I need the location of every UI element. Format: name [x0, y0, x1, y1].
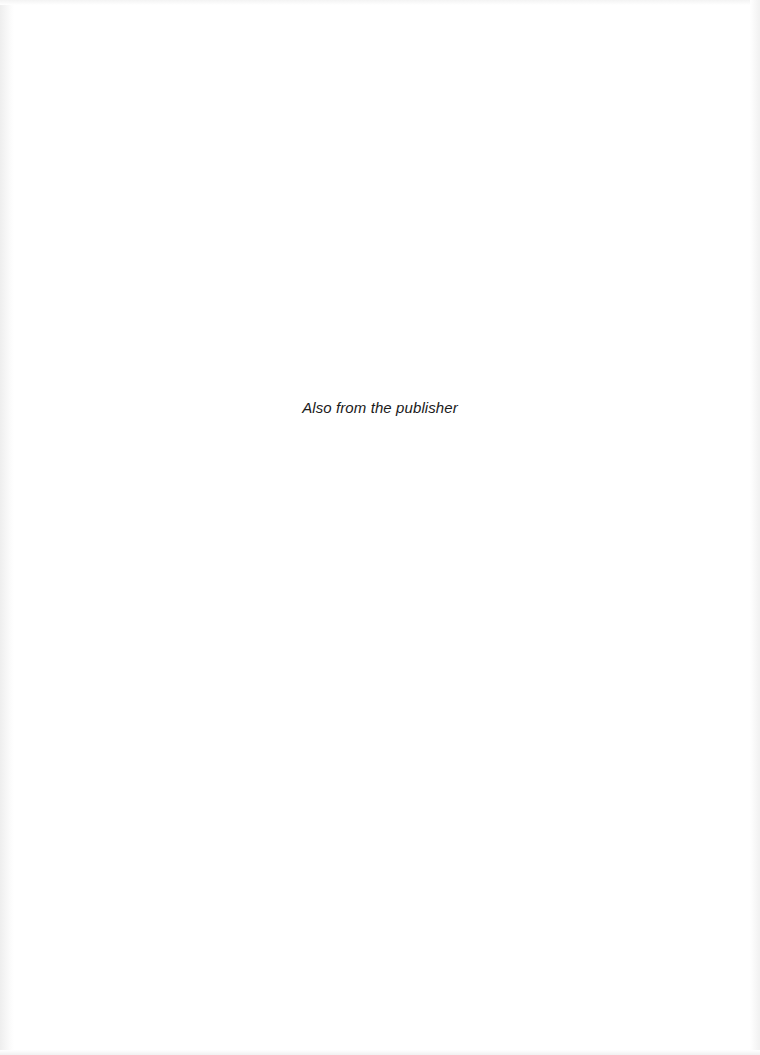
page-edge-shadow-left: [0, 0, 14, 1055]
page-edge-shadow-right: [750, 0, 760, 1055]
page-edge-shadow-top: [0, 0, 760, 5]
page-edge-shadow-bottom: [0, 1050, 760, 1055]
page-heading: Also from the publisher: [0, 399, 760, 416]
document-page: Also from the publisher: [0, 0, 760, 1055]
